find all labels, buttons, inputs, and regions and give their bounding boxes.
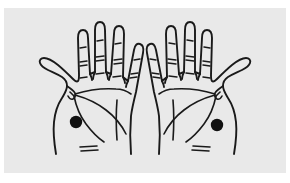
right-crease-middle-upper <box>169 43 175 44</box>
right-wrist-crease-lower <box>192 150 209 151</box>
hands-illustration <box>4 8 286 173</box>
left-wrist-crease-upper <box>80 146 97 147</box>
right-hand <box>147 22 251 154</box>
left-crease-middle-mid-a <box>114 59 122 60</box>
left-hand <box>40 22 144 154</box>
right-crease-index-upper <box>150 59 156 60</box>
left-heart-line <box>75 89 131 94</box>
screenshot-root <box>0 0 290 183</box>
left-crease-index-mid-a <box>131 73 138 74</box>
right-crease-base-pinky <box>203 77 210 78</box>
right-heart-line <box>159 89 215 94</box>
left-crease-pinky-mid-a <box>80 61 87 62</box>
left-thumb-tip-crease <box>70 92 74 96</box>
right-crease-middle-mid-b <box>168 63 176 64</box>
left-fate-line <box>116 100 117 140</box>
right-crease-ring-mid-a <box>186 56 194 57</box>
right-crease-base-middle <box>169 76 177 77</box>
right-crease-pinky-upper <box>204 47 210 48</box>
right-life-line <box>186 96 216 142</box>
left-crease-middle-mid-b <box>114 63 122 64</box>
right-crease-ring-mid-b <box>186 60 194 61</box>
right-finger-web-1 <box>198 74 200 80</box>
left-crease-index-mid-b <box>130 77 137 78</box>
left-wrist-crease-lower <box>81 150 98 151</box>
left-finger-web-1 <box>90 74 92 80</box>
right-head-line <box>164 95 215 134</box>
left-crease-base-ring <box>96 73 104 74</box>
right-crease-pinky-mid-a <box>203 61 210 62</box>
right-hand-marker-dot <box>211 119 223 131</box>
left-crease-ring-upper <box>97 40 103 41</box>
right-crease-middle-mid-a <box>168 59 176 60</box>
left-crease-base-middle <box>113 76 121 77</box>
right-fate-line <box>173 100 174 140</box>
illustration-plate <box>4 8 286 173</box>
right-crease-ring-upper <box>187 40 193 41</box>
left-head-line <box>75 95 126 134</box>
right-crease-base-ring <box>186 73 194 74</box>
right-finger-web-4 <box>179 74 181 80</box>
right-thumb-tip-crease <box>216 92 220 96</box>
left-finger-web-4 <box>109 74 111 80</box>
left-crease-ring-mid-b <box>96 60 104 61</box>
left-crease-base-pinky <box>80 77 87 78</box>
right-wrist-crease-upper <box>193 146 210 147</box>
right-crease-index-mid-b <box>153 77 160 78</box>
left-crease-index-upper <box>134 59 140 60</box>
right-crease-index-mid-a <box>152 73 159 74</box>
left-crease-ring-mid-a <box>96 56 104 57</box>
left-finger-web-6 <box>126 81 128 87</box>
right-finger-web-6 <box>162 81 164 87</box>
left-hand-marker-dot <box>70 116 82 128</box>
left-crease-pinky-upper <box>80 47 86 48</box>
right-crease-pinky-mid-b <box>203 65 210 66</box>
right-hand-outline <box>147 22 251 154</box>
left-crease-middle-upper <box>115 43 121 44</box>
left-crease-pinky-mid-b <box>80 65 87 66</box>
left-hand-outline <box>40 22 144 154</box>
